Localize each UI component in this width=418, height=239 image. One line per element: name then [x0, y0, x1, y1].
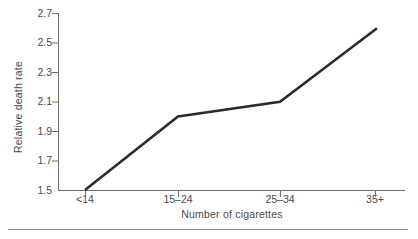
- footer-divider: [8, 229, 408, 230]
- plot-area: [0, 0, 418, 239]
- chart-figure: Relative death rate 2.7 2.5 2.3 2.1 1.9 …: [0, 0, 418, 239]
- data-series-line: [85, 28, 377, 190]
